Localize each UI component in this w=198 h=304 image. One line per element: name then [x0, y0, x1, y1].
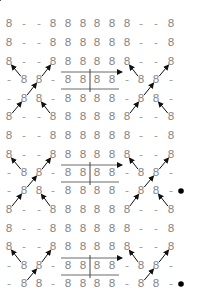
grid-digit: 8: [77, 277, 89, 291]
grid-digit: 8: [62, 148, 74, 162]
grid-digit: 8: [47, 240, 59, 254]
grid-dash: -: [165, 184, 177, 198]
grid-dash: -: [33, 240, 45, 254]
marker-dot-icon: [178, 188, 184, 194]
grid-digit: 8: [135, 73, 147, 87]
grid-digit: 8: [77, 222, 89, 236]
grid-dash: -: [150, 55, 162, 69]
grid-digit: 8: [91, 17, 103, 31]
grid-dash: -: [18, 36, 30, 50]
grid-digit: 8: [106, 184, 118, 198]
grid-digit: 8: [47, 17, 59, 31]
grid-digit: 8: [77, 110, 89, 124]
grid-digit: 8: [18, 73, 30, 87]
grid-dash: -: [150, 110, 162, 124]
grid-dash: -: [135, 55, 147, 69]
grid-digit: 8: [91, 55, 103, 69]
grid-digit: 8: [91, 277, 103, 291]
grid-dash: -: [165, 166, 177, 180]
grid-dash: -: [33, 36, 45, 50]
grid-digit: 8: [165, 240, 177, 254]
grid-digit: 8: [62, 36, 74, 50]
grid-digit: 8: [106, 129, 118, 143]
grid-digit: 8: [62, 166, 74, 180]
grid-digit: 8: [77, 203, 89, 217]
grid-digit: 8: [91, 148, 103, 162]
grid-digit: 8: [165, 17, 177, 31]
grid-digit: 8: [150, 259, 162, 273]
grid-dash: -: [18, 129, 30, 143]
grid-digit: 8: [91, 259, 103, 273]
grid-digit: 8: [3, 222, 15, 236]
grid-digit: 8: [47, 55, 59, 69]
grid-digit: 8: [121, 240, 133, 254]
grid-dash: -: [33, 203, 45, 217]
grid-digit: 8: [150, 92, 162, 106]
grid-digit: 8: [33, 277, 45, 291]
grid-digit: 8: [91, 222, 103, 236]
grid-digit: 8: [106, 166, 118, 180]
grid-digit: 8: [121, 129, 133, 143]
grid-digit: 8: [77, 184, 89, 198]
grid-digit: 8: [150, 277, 162, 291]
grid-dash: -: [47, 259, 59, 273]
grid-dash: -: [165, 73, 177, 87]
grid-digit: 8: [165, 203, 177, 217]
grid-digit: 8: [47, 36, 59, 50]
grid-digit: 8: [91, 73, 103, 87]
grid-dash: -: [18, 222, 30, 236]
grid-digit: 8: [165, 55, 177, 69]
grid-digit: 8: [3, 110, 15, 124]
grid-dash: -: [18, 55, 30, 69]
grid-digit: 8: [106, 203, 118, 217]
grid-digit: 8: [62, 92, 74, 106]
grid-dash: -: [135, 17, 147, 31]
grid-digit: 8: [77, 73, 89, 87]
grid-digit: 8: [62, 73, 74, 87]
grid-digit: 8: [165, 148, 177, 162]
grid-dash: -: [3, 184, 15, 198]
grid-digit: 8: [106, 73, 118, 87]
grid-dash: -: [165, 277, 177, 291]
grid-digit: 8: [121, 222, 133, 236]
grid-digit: 8: [62, 240, 74, 254]
grid-dash: -: [150, 36, 162, 50]
grid-digit: 8: [106, 240, 118, 254]
grid-digit: 8: [47, 222, 59, 236]
grid-dash: -: [33, 148, 45, 162]
grid-dash: -: [135, 110, 147, 124]
grid-dash: -: [121, 277, 133, 291]
grid-digit: 8: [121, 55, 133, 69]
grid-digit: 8: [62, 129, 74, 143]
grid-digit: 8: [91, 184, 103, 198]
grid-dash: -: [18, 203, 30, 217]
grid-dash: -: [33, 129, 45, 143]
grid-dash: -: [3, 259, 15, 273]
grid-digit: 8: [135, 277, 147, 291]
grid-digit: 8: [121, 110, 133, 124]
grid-digit: 8: [18, 259, 30, 273]
grid-digit: 8: [62, 184, 74, 198]
grid-digit: 8: [62, 203, 74, 217]
grid-digit: 8: [33, 259, 45, 273]
grid-digit: 8: [165, 129, 177, 143]
grid-digit: 8: [91, 36, 103, 50]
grid-dash: -: [47, 184, 59, 198]
grid-digit: 8: [91, 203, 103, 217]
grid-digit: 8: [91, 240, 103, 254]
grid-digit: 8: [150, 166, 162, 180]
grid-digit: 8: [106, 148, 118, 162]
grid-dash: -: [135, 222, 147, 236]
grid-dash: -: [150, 148, 162, 162]
grid-dash: -: [135, 36, 147, 50]
grid-digit: 8: [77, 148, 89, 162]
grid-digit: 8: [106, 36, 118, 50]
grid-dash: -: [121, 73, 133, 87]
grid-digit: 8: [33, 92, 45, 106]
grid-digit: 8: [77, 259, 89, 273]
grid-digit: 8: [106, 222, 118, 236]
grid-digit: 8: [150, 73, 162, 87]
grid-digit: 8: [62, 55, 74, 69]
grid-digit: 8: [47, 129, 59, 143]
grid-digit: 8: [3, 17, 15, 31]
